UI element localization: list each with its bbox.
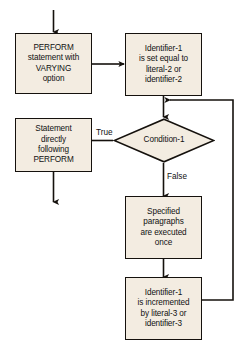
node-identifier-increment: Identifier-1 is incremented by literal-3… [125, 277, 202, 340]
node-identifier-increment-line-1: is incremented [138, 298, 190, 308]
node-paragraphs-executed: Specified paragraphs are executed once [125, 196, 202, 259]
node-statement-after-perform: Statement directly following PERFORM [15, 118, 92, 172]
flowchart-diagram: PERFORM statement with VARYING option Id… [0, 0, 251, 346]
node-perform-statement-line-3: option [43, 74, 65, 84]
node-statement-after-perform-line-2: following [38, 145, 69, 155]
edge-label-true: True [96, 128, 113, 137]
node-perform-statement-line-1: statement with [28, 53, 79, 63]
node-identifier-increment-line-2: by literal-3 or [141, 309, 187, 319]
node-paragraphs-executed-line-0: Specified [147, 207, 180, 217]
node-perform-statement-line-2: VARYING [36, 64, 71, 74]
node-perform-statement: PERFORM statement with VARYING option [15, 33, 92, 94]
node-statement-after-perform-line-3: PERFORM [33, 155, 73, 165]
node-condition-decision: Condition-1 [113, 118, 215, 163]
node-identifier-init-line-1: is set equal to [139, 54, 188, 64]
node-paragraphs-executed-line-1: paragraphs [143, 217, 183, 227]
node-identifier-init-line-2: literal-2 or [146, 65, 181, 75]
node-statement-after-perform-line-1: directly [41, 135, 66, 145]
node-identifier-init-line-3: identifier-2 [145, 75, 182, 85]
node-perform-statement-line-0: PERFORM [33, 43, 73, 53]
node-identifier-increment-line-3: identifier-3 [145, 319, 182, 329]
node-condition-label: Condition-1 [144, 135, 185, 145]
edge-label-false: False [167, 172, 187, 181]
node-identifier-increment-line-0: Identifier-1 [145, 288, 182, 298]
node-identifier-init-line-0: Identifier-1 [145, 44, 182, 54]
node-paragraphs-executed-line-3: once [155, 238, 172, 248]
node-paragraphs-executed-line-2: are executed [140, 228, 186, 238]
node-statement-after-perform-line-0: Statement [35, 124, 71, 134]
node-identifier-init: Identifier-1 is set equal to literal-2 o… [125, 33, 202, 96]
